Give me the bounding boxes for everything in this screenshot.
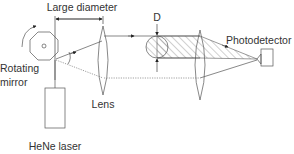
optical-diagram: Large diameter Rotating mirror HeNe lase… xyxy=(0,0,294,154)
d-label: D xyxy=(153,11,161,23)
photodetector-label: Photodetector xyxy=(226,34,292,46)
focus-lower xyxy=(200,60,257,78)
mirror-label: mirror xyxy=(0,76,28,88)
mirror-axis xyxy=(42,44,46,48)
hene-laser-label: HeNe laser xyxy=(29,140,82,152)
rotating-label: Rotating xyxy=(0,62,39,74)
detector-aperture xyxy=(257,54,261,64)
rotating-mirror xyxy=(22,26,70,64)
scan-path-dotted xyxy=(56,60,103,78)
large-diameter-label: Large diameter xyxy=(47,1,118,13)
particle-d xyxy=(146,36,168,58)
beam-to-lens xyxy=(56,41,102,59)
mirror-octagon xyxy=(30,32,58,60)
hene-laser xyxy=(45,88,65,128)
photodetector xyxy=(261,49,273,66)
lens-label: Lens xyxy=(92,98,115,110)
